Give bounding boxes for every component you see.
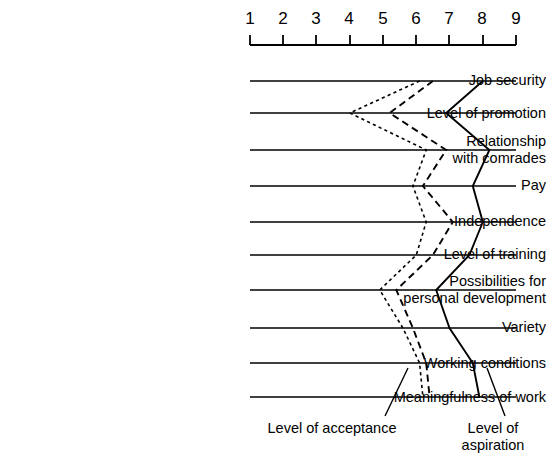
- plot-area: [0, 0, 546, 476]
- chart-container: 1 2 3 4 5 6 7 8 9 Job security Level of …: [0, 0, 546, 476]
- axis-ticks: [250, 35, 516, 45]
- series-line-aspiration: [436, 81, 489, 397]
- leader-line-acceptance: [385, 368, 408, 416]
- leader-line-aspiration: [487, 368, 505, 416]
